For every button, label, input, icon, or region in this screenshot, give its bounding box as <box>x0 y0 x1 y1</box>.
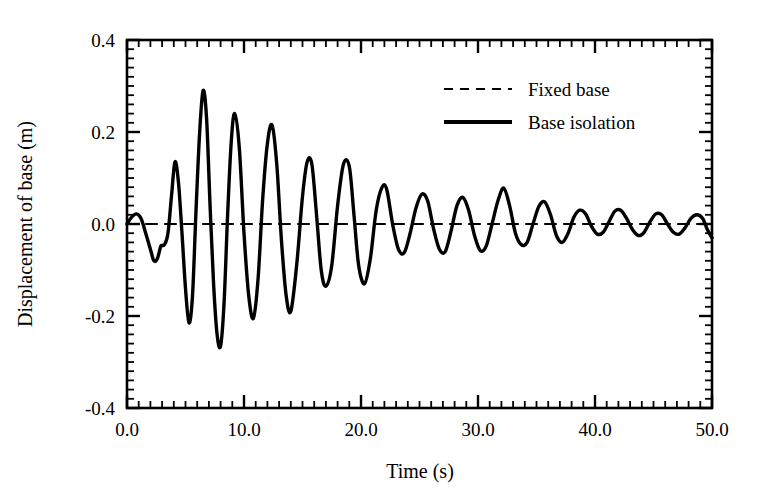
y-tick-label: 0.2 <box>91 122 115 143</box>
x-tick-label: 20.0 <box>344 419 377 440</box>
x-axis-label: Time (s) <box>386 460 454 483</box>
legend-label-fixed-base: Fixed base <box>528 79 610 100</box>
y-axis-label: Displacement of base (m) <box>14 121 37 327</box>
legend-label-base-isolation: Base isolation <box>528 112 636 133</box>
y-tick-label: -0.4 <box>85 398 116 419</box>
x-tick-label: 0.0 <box>115 419 139 440</box>
x-tick-label: 50.0 <box>695 419 728 440</box>
y-tick-label: 0.4 <box>91 30 115 51</box>
displacement-time-plot: 0.010.020.030.040.050.0 -0.4-0.20.00.20.… <box>0 0 769 495</box>
x-tick-label: 40.0 <box>578 419 611 440</box>
x-tick-label: 10.0 <box>227 419 260 440</box>
y-tick-label: 0.0 <box>91 214 115 235</box>
chart-figure: 0.010.020.030.040.050.0 -0.4-0.20.00.20.… <box>0 0 769 495</box>
x-tick-label: 30.0 <box>461 419 494 440</box>
y-tick-label: -0.2 <box>85 306 115 327</box>
